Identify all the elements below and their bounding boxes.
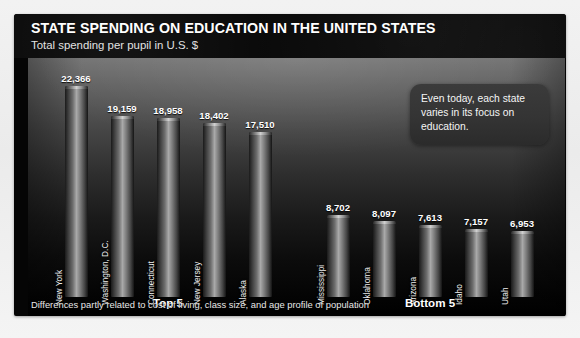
bar-arizona	[419, 225, 442, 297]
footnote: Differences partly related to cost of li…	[31, 299, 369, 310]
bar-cap	[465, 229, 488, 232]
plot-area: 22,366New York19,159Washington, D.C.18,9…	[28, 58, 565, 316]
bar-mississippi	[327, 215, 350, 297]
bar-washington-d-c	[111, 116, 134, 297]
callout-box: Even today, each state varies in its foc…	[410, 84, 549, 145]
bar-connecticut	[157, 118, 180, 297]
bar-oklahoma	[373, 221, 396, 297]
page-subtitle: Total spending per pupil in U.S. $	[31, 39, 198, 51]
bar-cap	[249, 132, 272, 135]
bar-cap	[327, 215, 350, 218]
bar-cap	[203, 123, 226, 126]
callout-text: Even today, each state varies in its foc…	[421, 92, 541, 135]
page-title: STATE SPENDING ON EDUCATION IN THE UNITE…	[31, 20, 436, 36]
bar-value-label: 17,510	[230, 119, 290, 130]
bar-value-label: 22,366	[46, 73, 106, 84]
bar-cap	[373, 221, 396, 224]
bar-cap	[157, 118, 180, 121]
infographic-canvas: STATE SPENDING ON EDUCATION IN THE UNITE…	[0, 0, 580, 338]
header-bar: STATE SPENDING ON EDUCATION IN THE UNITE…	[14, 14, 566, 58]
bar-idaho	[465, 229, 488, 297]
bar-new-jersey	[203, 123, 226, 297]
group-label-bottom: Bottom 5	[370, 296, 490, 309]
bar-cap	[111, 116, 134, 119]
bar-cap	[511, 231, 534, 234]
bar-utah	[511, 231, 534, 297]
bar-new-york	[65, 86, 88, 297]
bar-cap	[419, 225, 442, 228]
chart-panel: STATE SPENDING ON EDUCATION IN THE UNITE…	[14, 14, 566, 316]
bar-alaska	[249, 132, 272, 297]
bar-category-label: Utah	[500, 287, 510, 305]
bar-cap	[65, 86, 88, 89]
bar-value-label: 6,953	[492, 218, 552, 229]
